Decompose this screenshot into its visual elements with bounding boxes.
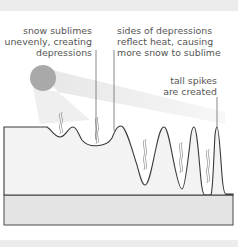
ground-layer [4, 195, 233, 225]
label-depressions-line3: depressions [4, 47, 92, 58]
label-depressions: snow sublimesunevenly, creatingdepressio… [4, 25, 92, 58]
label-reflect-line3: more snow to sublime [117, 47, 221, 58]
label-reflect-line2: reflect heat, causing [117, 36, 221, 47]
label-spikes: tall spikesare created [163, 75, 217, 97]
sun-icon [30, 65, 56, 91]
bottom-border-band [0, 240, 238, 247]
label-depressions-line1: snow sublimes [4, 25, 92, 36]
snow-surface [4, 126, 233, 195]
label-depressions-line2: unevenly, creating [4, 36, 92, 47]
label-spikes-line1: tall spikes [163, 75, 217, 86]
label-reflect: sides of depressionsreflect heat, causin… [117, 25, 221, 58]
label-reflect-line1: sides of depressions [117, 25, 221, 36]
label-spikes-line2: are created [163, 86, 217, 97]
